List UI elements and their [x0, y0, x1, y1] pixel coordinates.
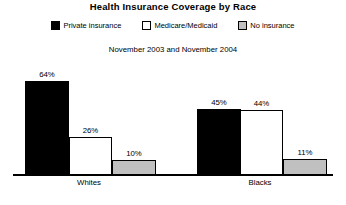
- bar-value-whites-no-insurance: 10%: [112, 149, 156, 158]
- x-axis-label-blacks: Blacks: [229, 178, 291, 187]
- bar-whites-no-insurance: [112, 160, 156, 175]
- bar-value-whites-medicare-medicaid: 26%: [69, 126, 112, 135]
- bar-blacks-no-insurance: [283, 159, 327, 175]
- bar-value-blacks-medicare-medicaid: 44%: [240, 99, 283, 108]
- bar-value-blacks-private-insurance: 45%: [197, 98, 241, 107]
- bar-blacks-medicare-medicaid: [240, 110, 283, 175]
- x-axis-line: [13, 174, 333, 176]
- bar-blacks-private-insurance: [197, 109, 241, 175]
- bar-value-whites-private-insurance: 64%: [25, 70, 69, 79]
- bar-whites-medicare-medicaid: [69, 137, 112, 175]
- bar-value-blacks-no-insurance: 11%: [283, 148, 327, 157]
- plot-area: 64% 26% 10% 45% 44% 11% Whites Blacks: [0, 0, 346, 205]
- bar-whites-private-insurance: [25, 81, 69, 175]
- x-axis-label-whites: Whites: [58, 178, 120, 187]
- bar-chart: Health Insurance Coverage by Race Privat…: [0, 0, 346, 205]
